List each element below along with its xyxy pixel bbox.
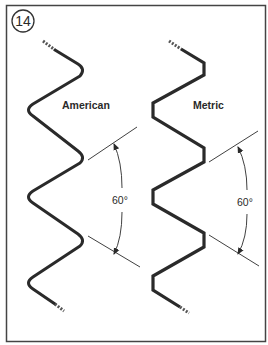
american-angle-label: 60° xyxy=(112,194,128,206)
metric-angle-annotation: 60° xyxy=(209,131,259,266)
american-angle-annotation: 60° xyxy=(88,127,140,267)
metric-lower-flank-line xyxy=(209,235,259,266)
metric-angle-label: 60° xyxy=(237,196,253,208)
figure-number: 14 xyxy=(15,13,31,29)
american-label: American xyxy=(62,99,110,111)
figure-frame xyxy=(7,6,266,342)
metric-angle-arc-lower xyxy=(238,214,247,254)
metric-label: Metric xyxy=(193,99,224,111)
metric-thread-profile xyxy=(153,49,204,307)
metric-upper-flank-line xyxy=(209,131,258,162)
american-thread-profile xyxy=(29,50,83,304)
metric-thread: Metric xyxy=(153,41,224,313)
american-thread: American xyxy=(29,41,110,311)
metric-angle-arc-upper xyxy=(238,147,247,190)
american-upper-flank-line xyxy=(88,127,137,160)
american-lower-flank-line xyxy=(88,236,140,267)
thread-comparison-figure: 14 American 60° Metric 60° xyxy=(0,0,268,345)
metric-thread-end-dash xyxy=(180,307,189,313)
metric-thread-start-dash xyxy=(169,41,181,49)
american-angle-arc-lower xyxy=(114,212,122,254)
american-thread-end-dash xyxy=(55,304,64,311)
american-thread-start-dash xyxy=(43,41,55,50)
american-angle-arc-upper xyxy=(114,144,122,188)
figure-number-badge: 14 xyxy=(12,10,34,32)
